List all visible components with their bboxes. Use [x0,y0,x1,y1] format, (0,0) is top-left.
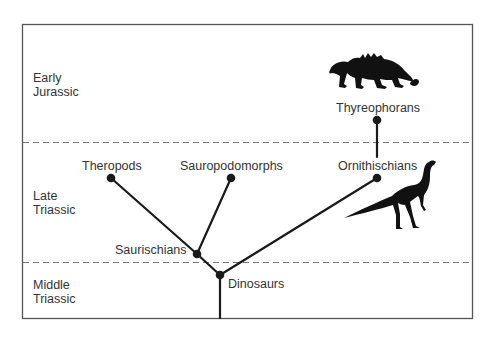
node-sauropodomorphs [227,174,236,183]
period-label-middle-triassic: Middle Triassic [33,278,76,306]
period-label-early-jurassic: Early Jurassic [33,71,79,99]
label-thyreophorans: Thyreophorans [336,101,420,115]
node-ornithischians [373,174,382,183]
node-saurischians [193,250,202,259]
node-dinosaurs [216,271,225,280]
edge-saurischians-sauropodomorphs [197,178,231,254]
edge-dinosaurs-ornithischians [220,178,377,275]
label-theropods: Theropods [82,159,142,173]
label-sauropodomorphs: Sauropodomorphs [180,159,283,173]
label-saurischians: Saurischians [115,243,187,257]
phylogeny-diagram: Early Jurassic Late Triassic Middle Tria… [0,0,489,337]
edge-dinosaurs-saurischians [197,254,220,275]
label-dinosaurs: Dinosaurs [228,277,284,291]
period-label-late-triassic: Late Triassic [33,189,76,217]
ankylosaur-silhouette-icon [329,53,419,89]
node-theropods [107,174,116,183]
label-ornithischians: Ornithischians [338,159,417,173]
node-thyreophorans [373,116,382,125]
